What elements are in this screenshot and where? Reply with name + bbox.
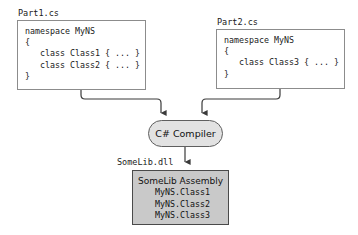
diagram-canvas: Part1.cs namespace MyNS { class Class1 {… [0,0,358,235]
compiler-label: C# Compiler [155,128,215,139]
assembly-member: MyNS.Class3 [133,210,228,222]
source-file-part1-filename: Part1.cs [18,8,146,19]
assembly-title: SomeLib Assembly [133,175,228,187]
source-file-part1-box: namespace MyNS { class Class1 { ... } cl… [17,20,146,90]
assembly-box: SomeLib Assembly MyNS.Class1 MyNS.Class2… [132,170,229,225]
assembly-member: MyNS.Class1 [133,187,228,199]
output-dll-label: SomeLib.dll [117,157,173,167]
source-file-part2-box: namespace MyNS { class Class3 { ... } } [216,29,345,89]
source-file-part2: Part2.cs namespace MyNS { class Class3 {… [216,17,345,89]
source-file-part1-code: namespace MyNS { class Class1 { ... } cl… [25,26,139,82]
source-file-part2-code: namespace MyNS { class Class3 { ... } } [224,35,338,80]
source-file-part2-filename: Part2.cs [217,17,345,28]
compiler-node: C# Compiler [148,120,223,147]
assembly-member: MyNS.Class2 [133,199,228,211]
source-file-part1: Part1.cs namespace MyNS { class Class1 {… [17,8,146,90]
